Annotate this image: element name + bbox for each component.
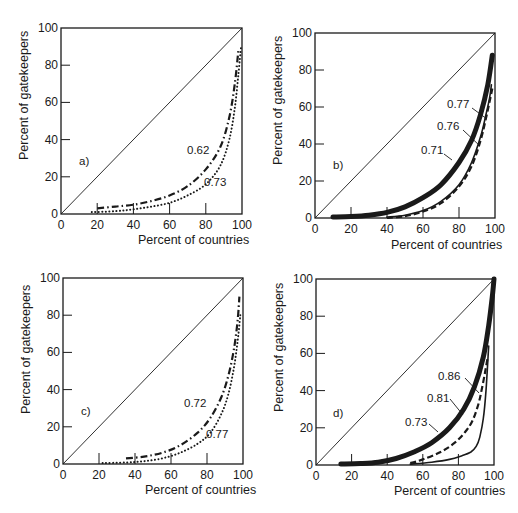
chart-d-svg: 020406080100020406080100: [0, 0, 518, 513]
x-tick-label: 100: [484, 469, 504, 483]
x-axis-label: Percent of countries: [394, 484, 505, 498]
panel-label: d): [333, 407, 343, 419]
series-073: [341, 279, 494, 464]
y-tick-label: 60: [300, 346, 314, 360]
curve-label-073: 0.73: [405, 416, 427, 428]
y-tick-label: 80: [300, 309, 314, 323]
panel-d: 020406080100020406080100 Percent of gate…: [0, 0, 518, 513]
x-tick-label: 0: [313, 469, 320, 483]
leader-line: [450, 399, 463, 415]
x-tick-label: 80: [452, 469, 466, 483]
y-tick-label: 100: [293, 272, 313, 286]
equality-line: [316, 279, 494, 465]
x-tick-label: 40: [381, 469, 395, 483]
x-tick-label: 20: [345, 469, 359, 483]
leader-line: [429, 424, 438, 432]
y-tick-label: 40: [300, 384, 314, 398]
y-tick-label: 20: [300, 421, 314, 435]
curve-label-086: 0.86: [438, 370, 460, 382]
curve-label-081: 0.81: [427, 392, 449, 404]
y-axis-label: Percent of gatekeepers: [272, 283, 286, 412]
x-tick-label: 60: [416, 469, 430, 483]
